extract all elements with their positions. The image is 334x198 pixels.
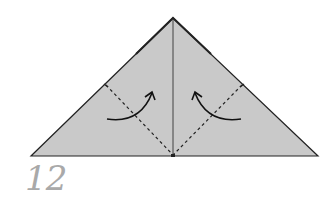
step-number: 12: [25, 158, 66, 198]
base-center-mark: [171, 154, 175, 157]
paper-triangle: [31, 18, 318, 156]
